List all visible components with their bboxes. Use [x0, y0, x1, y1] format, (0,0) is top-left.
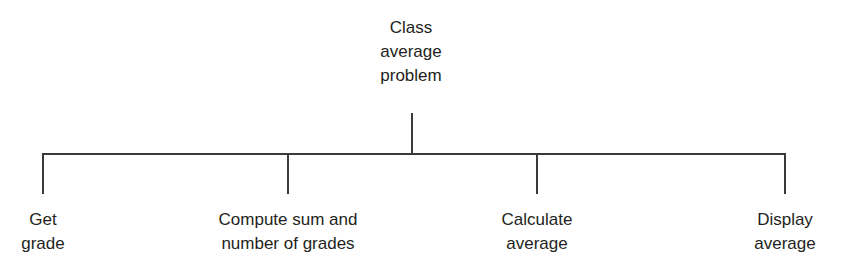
child-connector-3 [536, 153, 538, 194]
child-connector-2 [287, 153, 289, 194]
root-label-line3: problem [380, 64, 441, 88]
child-label-line1: Get [21, 208, 64, 232]
root-node: Class average problem [380, 16, 441, 88]
child-label-line1: Display [754, 208, 815, 232]
child-connector-4 [784, 153, 786, 194]
child-label-line2: average [502, 232, 573, 256]
child-label-line2: number of grades [219, 232, 358, 256]
child-label-line1: Calculate [502, 208, 573, 232]
child-node-display-average: Display average [754, 208, 815, 256]
child-connector-1 [42, 153, 44, 194]
horizontal-connector [42, 153, 785, 155]
child-label-line2: average [754, 232, 815, 256]
root-label-line2: average [380, 40, 441, 64]
root-connector [411, 113, 413, 154]
child-node-get-grade: Get grade [21, 208, 64, 256]
child-label-line1: Compute sum and [219, 208, 358, 232]
child-node-compute-sum: Compute sum and number of grades [219, 208, 358, 256]
child-node-calculate-average: Calculate average [502, 208, 573, 256]
root-label-line1: Class [380, 16, 441, 40]
child-label-line2: grade [21, 232, 64, 256]
